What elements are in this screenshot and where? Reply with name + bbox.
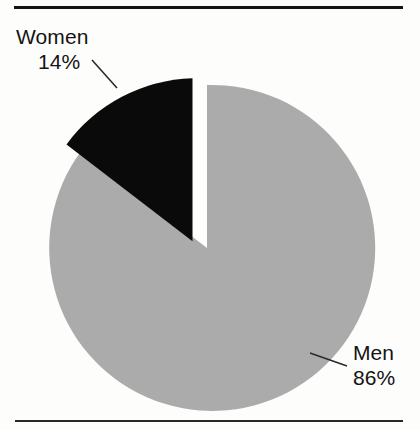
bottom-rule-divider (15, 420, 403, 422)
men-callout-label: Men 86% (353, 340, 395, 390)
pie-chart-figure: Women 14% Men 86% (0, 0, 420, 430)
women-callout-label: Women 14% (16, 24, 88, 74)
men-category-name: Men (353, 341, 394, 364)
women-leader-line (92, 60, 117, 88)
women-category-name: Women (16, 25, 88, 48)
men-percent-value: 86% (353, 365, 395, 390)
women-percent-value: 14% (16, 49, 88, 74)
